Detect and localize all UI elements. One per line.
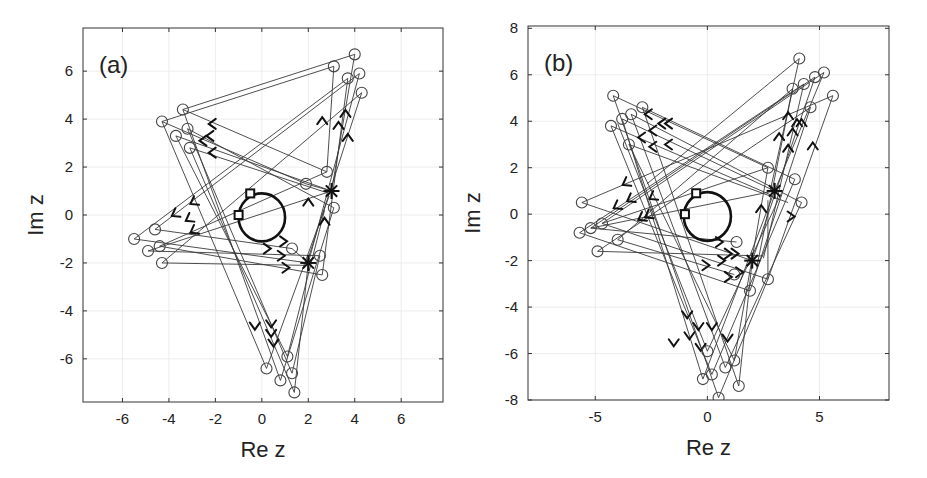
x-axis-label: Re z <box>686 435 731 460</box>
x-tick-label: -4 <box>162 410 175 427</box>
x-tick-label: 5 <box>815 408 823 425</box>
x-tick-label: -6 <box>116 410 129 427</box>
y-tick-label: 6 <box>510 66 518 83</box>
y-tick-label: 8 <box>510 19 518 36</box>
figure: -6-4-20246-6-4-20246Re zIm z(a)-505-8-6-… <box>0 0 927 478</box>
square-marker <box>692 189 700 197</box>
y-tick-label: 0 <box>510 205 518 222</box>
y-tick-label: 4 <box>65 110 73 127</box>
y-tick-label: 2 <box>510 159 518 176</box>
y-tick-label: -4 <box>60 302 73 319</box>
x-tick-label: -2 <box>209 410 222 427</box>
y-tick-label: 6 <box>65 62 73 79</box>
x-tick-label: 2 <box>304 410 312 427</box>
square-marker <box>681 210 689 218</box>
x-tick-label: 0 <box>703 408 711 425</box>
y-tick-label: 0 <box>65 206 73 223</box>
x-tick-label: -5 <box>589 408 602 425</box>
square-marker <box>246 189 254 197</box>
panel-b: -505-8-6-4-202468Re zIm z(b) <box>460 19 889 460</box>
y-tick-label: -6 <box>60 350 73 367</box>
x-axis-label: Re z <box>240 437 285 462</box>
y-tick-label: 2 <box>65 158 73 175</box>
y-tick-label: -2 <box>60 254 73 271</box>
y-tick-label: 4 <box>510 112 518 129</box>
x-tick-label: 0 <box>258 410 266 427</box>
y-tick-label: -4 <box>505 298 518 315</box>
x-tick-label: 6 <box>397 410 405 427</box>
x-tick-label: 4 <box>351 410 359 427</box>
y-axis-label: Im z <box>23 194 48 236</box>
panel-a: -6-4-20246-6-4-20246Re zIm z(a) <box>23 28 443 462</box>
panel-label: (a) <box>99 51 128 78</box>
square-marker <box>235 211 243 219</box>
plot-area <box>528 26 889 400</box>
panel-label: (b) <box>544 49 573 76</box>
y-tick-label: -6 <box>505 345 518 362</box>
y-tick-label: -8 <box>505 391 518 408</box>
y-tick-label: -2 <box>505 252 518 269</box>
y-axis-label: Im z <box>460 192 485 234</box>
